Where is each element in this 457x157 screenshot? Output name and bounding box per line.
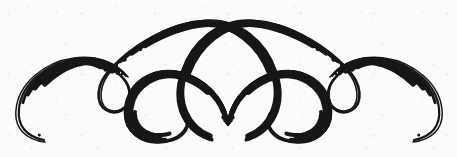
ink-group [16,21,442,143]
ornament-canvas [0,0,457,157]
flourish-ornament-illustration [0,0,457,157]
stroke-right-outer-crescent [330,57,442,142]
stroke-left-inner-spiral [125,71,228,143]
